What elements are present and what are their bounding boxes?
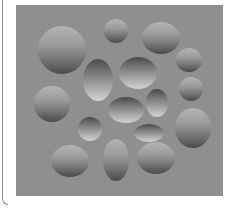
illusion-panel (16, 5, 223, 196)
convex-shape (103, 139, 129, 181)
convex-shape (38, 26, 86, 74)
concave-shape (146, 89, 168, 117)
concave-shape (78, 117, 102, 141)
page-edge-line (2, 0, 8, 205)
convex-shape (179, 77, 203, 101)
convex-shape (104, 19, 128, 43)
convex-shape (137, 142, 175, 174)
convex-shape (34, 86, 70, 122)
convex-shape (142, 22, 180, 54)
convex-shape (176, 48, 202, 72)
concave-shape (83, 59, 113, 101)
concave-shape (134, 124, 164, 142)
concave-shape (119, 57, 157, 89)
convex-shape (175, 108, 211, 148)
convex-shape (51, 145, 89, 177)
concave-shape (108, 97, 144, 123)
